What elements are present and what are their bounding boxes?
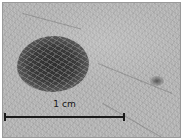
small-pigment-spot xyxy=(150,76,164,86)
scale-bar-line xyxy=(4,116,125,118)
skin-crease xyxy=(23,13,81,29)
scale-bar xyxy=(4,113,125,121)
scale-bar-label: 1 cm xyxy=(4,99,125,109)
pigmented-lesion xyxy=(17,36,89,92)
scale-bar-tick-left xyxy=(4,113,6,121)
figure-frame: 1 cm xyxy=(0,0,183,140)
scale-bar-tick-right xyxy=(123,113,125,121)
